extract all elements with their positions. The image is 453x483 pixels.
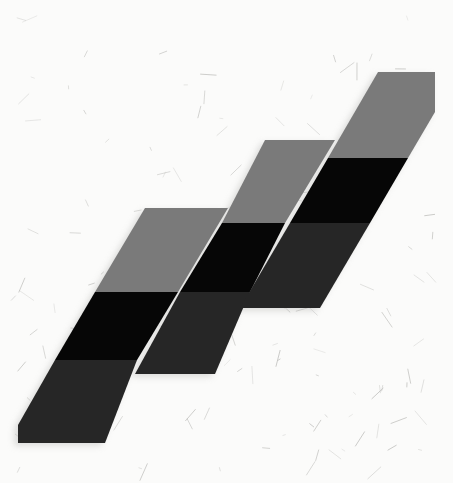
quilt-photo (0, 0, 453, 483)
